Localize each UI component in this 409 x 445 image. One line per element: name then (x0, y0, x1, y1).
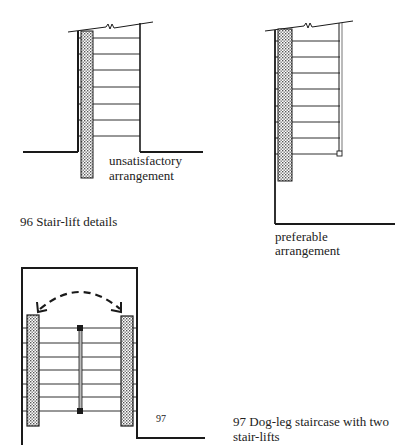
preferable-label-line2: arrangement (275, 243, 340, 258)
central-stair-lift-rail (79, 329, 82, 411)
figure-97-caption-line2: stair-lifts (233, 429, 280, 444)
stippled-wall-left (27, 315, 39, 426)
stippled-wall (278, 29, 292, 181)
figure-97-number: 97 (156, 411, 166, 426)
rail-end-stop (77, 325, 83, 331)
preferable-label-line1: preferable (275, 229, 328, 244)
unsatisfactory-label-line1: unsatisfactory (109, 153, 182, 168)
figure-97-caption-line1: 97 Dog-leg staircase with two (233, 414, 389, 429)
unsatisfactory-label-line2: arrangement (109, 168, 174, 183)
stippled-wall (81, 31, 93, 178)
swing-arc-arrow (40, 292, 120, 309)
stair-treads (292, 41, 340, 154)
stair-enclosure (22, 268, 205, 445)
rail-end-stop (77, 408, 83, 414)
figure-96-caption: 96 Stair-lift details (20, 214, 117, 229)
stair-treads (93, 38, 140, 136)
stippled-wall-right (121, 316, 133, 426)
fig96-preferable-diagram (265, 21, 395, 224)
fig97-dogleg-diagram (22, 268, 205, 445)
rail-end-stop (337, 151, 342, 156)
